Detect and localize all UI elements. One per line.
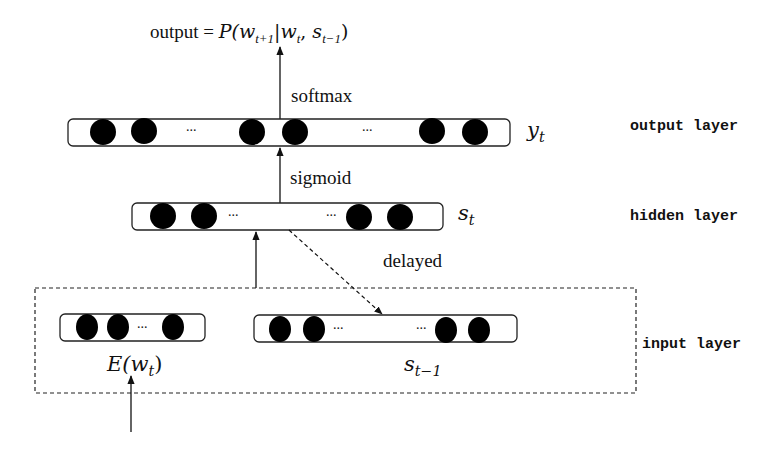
diagram-graphics [0, 0, 778, 453]
embedding-node [76, 314, 98, 340]
hidden-ellipsis-1: ... [228, 204, 239, 220]
output-ellipsis-1: ... [186, 119, 197, 135]
output-node [282, 119, 308, 145]
output-symbol: yt [527, 118, 545, 145]
previous-state-symbol: st−1 [404, 352, 442, 379]
embedding-ellipsis: ... [137, 316, 148, 332]
hidden-node [191, 203, 217, 229]
embedding-label: E(wt) [107, 352, 162, 379]
output-node [90, 119, 116, 145]
delayed-label: delayed [383, 250, 442, 272]
output-node [131, 118, 157, 144]
hidden-symbol: st [458, 201, 475, 228]
output-formula: output = P(wt+1|wt, st−1) [150, 20, 348, 47]
previous-state-node [303, 316, 325, 342]
rnn-language-model-diagram: output = P(wt+1|wt, st−1) softmax sigmoi… [0, 0, 778, 453]
input-layer-label: input layer [642, 336, 741, 353]
output-formula-prefix: output = [150, 21, 219, 42]
previous-state-bar [254, 315, 517, 343]
previous-state-node [269, 316, 291, 342]
sigmoid-label: sigmoid [290, 167, 351, 189]
embedding-node [162, 314, 184, 340]
previous-state-ellipsis-1: ... [333, 317, 344, 333]
hidden-layer-label: hidden layer [630, 208, 738, 225]
hidden-ellipsis-2: ... [326, 204, 337, 220]
previous-state-node [468, 317, 490, 343]
output-node [462, 119, 488, 145]
softmax-label: softmax [291, 85, 352, 107]
embedding-bar [60, 314, 205, 341]
hidden-layer-bar [132, 203, 443, 230]
output-node [239, 119, 265, 145]
output-node [419, 118, 445, 144]
hidden-node [150, 203, 176, 229]
delayed-arrow [289, 230, 382, 314]
previous-state-ellipsis-2: ... [416, 317, 427, 333]
output-layer-label: output layer [630, 118, 738, 135]
hidden-node [346, 204, 372, 230]
output-layer-bar [68, 118, 510, 146]
output-ellipsis-2: ... [362, 119, 373, 135]
previous-state-node [435, 317, 457, 343]
embedding-node [107, 314, 129, 340]
hidden-node [387, 204, 413, 230]
